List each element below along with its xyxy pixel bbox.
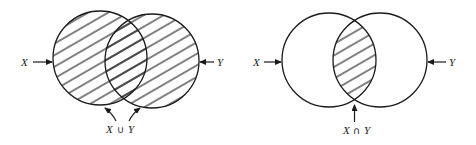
union-caption: X ∪ Y (105, 123, 136, 135)
intersection-caption: X ∩ Y (342, 124, 372, 136)
svg-text:X: X (342, 124, 351, 136)
union-diagram: X Y X ∪ Y (20, 11, 225, 135)
curved-arrow-icon (129, 108, 140, 121)
svg-text:Y: Y (364, 124, 372, 136)
svg-text:∩: ∩ (353, 125, 360, 136)
svg-text:Y: Y (128, 123, 136, 135)
intersection-diagram: X Y X ∩ Y (252, 13, 457, 136)
set-y-label: Y (217, 56, 225, 68)
svg-text:∪: ∪ (117, 124, 124, 135)
venn-figure: X Y X ∪ Y X Y X ∩ Y (0, 0, 476, 145)
set-y-label: Y (449, 56, 457, 68)
curved-arrow-icon (105, 108, 116, 121)
svg-text:X: X (105, 123, 114, 135)
set-x-label: X (20, 56, 29, 68)
union-shaded-region (53, 11, 199, 108)
set-x-label: X (252, 56, 261, 68)
